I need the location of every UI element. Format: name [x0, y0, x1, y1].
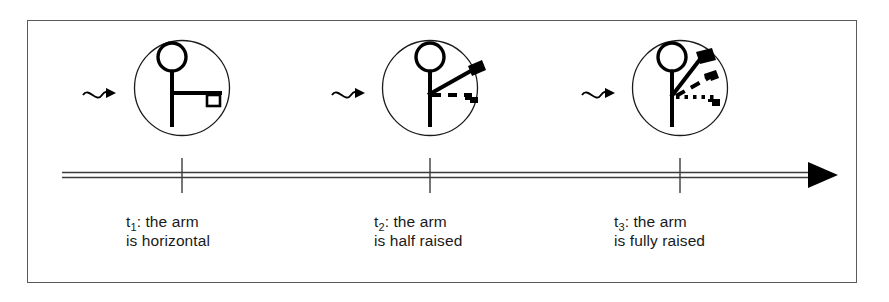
caption-t1-rest: : the arm — [137, 213, 199, 230]
caption-t3: t3: the arm is fully raised — [614, 212, 705, 250]
figure-head-t3 — [658, 43, 686, 71]
wavy-arrow-icon-t3 — [582, 92, 613, 98]
caption-t2-rest: : the arm — [385, 213, 447, 230]
state-bubble-t1 — [83, 41, 230, 136]
caption-t3-line2: is fully raised — [614, 231, 705, 250]
caption-t2: t2: the arm is half raised — [374, 212, 462, 250]
pointer-arrow-t1 — [83, 92, 114, 98]
caption-t2-line1: t2: the arm — [374, 212, 462, 231]
wavy-arrow-icon-t1 — [83, 92, 114, 98]
wavy-arrow-icon-t2 — [332, 92, 363, 98]
figure-head-t1 — [158, 43, 186, 71]
diagram-artwork — [0, 0, 889, 302]
diagram-canvas: t1: the arm is horizontal t2: the arm is… — [0, 0, 889, 302]
state-bubble-t2 — [332, 41, 486, 136]
state-bubble-t3 — [582, 41, 728, 136]
caption-t1-line1: t1: the arm — [126, 212, 210, 231]
timeline-axis — [62, 162, 838, 188]
flag-box-t1 — [207, 95, 220, 106]
caption-t2-line2: is half raised — [374, 231, 462, 250]
caption-t1-line2: is horizontal — [126, 231, 210, 250]
timeline-ticks — [182, 158, 680, 193]
figure-head-t2 — [416, 43, 444, 71]
figure-hand-flag-t1 — [207, 95, 220, 106]
caption-t3-rest: : the arm — [625, 213, 687, 230]
caption-t1: t1: the arm is horizontal — [126, 212, 210, 250]
caption-t3-line1: t3: the arm — [614, 212, 705, 231]
pointer-arrow-t3 — [582, 92, 613, 98]
pointer-arrow-t2 — [332, 92, 363, 98]
timeline-arrowhead-icon — [808, 162, 838, 188]
